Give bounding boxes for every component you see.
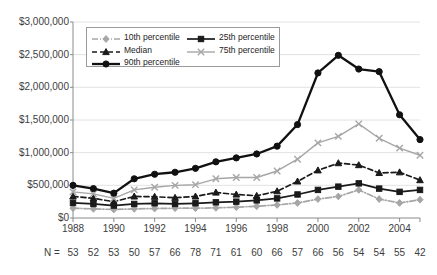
data-point-square: [397, 189, 402, 194]
data-point-square: [336, 184, 341, 189]
data-point-circle: [396, 112, 402, 118]
x-axis-tick-label: 1994: [175, 223, 215, 235]
x-axis-tick-label: 1988: [53, 223, 93, 235]
legend-swatch-icon: [186, 44, 216, 56]
data-point-square: [315, 187, 320, 192]
data-point-x: [396, 145, 402, 151]
legend-swatch-icon: [186, 31, 216, 43]
x-axis-tick-label: 1996: [216, 223, 256, 235]
chart-legend: 10th percentile25th percentileMedian75th…: [86, 27, 280, 67]
data-point-circle: [213, 159, 219, 165]
chart-figure: $0$500,000$1,000,000$1,500,000$2,000,000…: [0, 0, 437, 275]
data-point-circle: [254, 151, 260, 157]
data-point-x: [356, 121, 362, 127]
data-point-circle: [152, 171, 158, 177]
data-point-circle: [233, 155, 239, 161]
x-axis-tick-label: 2004: [380, 223, 420, 235]
data-point-square: [152, 201, 157, 206]
x-axis-tick-label: 2002: [339, 223, 379, 235]
data-point-circle: [294, 121, 300, 127]
data-point-circle: [131, 176, 137, 182]
data-point-circle: [192, 165, 198, 171]
data-point-diamond: [335, 193, 341, 200]
data-point-circle: [90, 186, 96, 192]
data-point-circle: [335, 52, 341, 58]
legend-swatch-icon: [91, 44, 121, 56]
data-point-x: [376, 135, 382, 141]
data-point-square: [132, 201, 137, 206]
data-point-diamond: [103, 36, 109, 43]
legend-item[interactable]: Median: [91, 44, 152, 56]
data-point-square: [295, 192, 300, 197]
series-90th-percentile: [70, 52, 423, 196]
data-point-square: [356, 181, 361, 186]
data-point-circle: [111, 190, 117, 196]
legend-item[interactable]: 25th percentile: [186, 31, 275, 43]
data-point-circle: [172, 169, 178, 175]
x-axis-tick-label: 1990: [94, 223, 134, 235]
series-line: [73, 124, 420, 198]
data-point-square: [172, 201, 177, 206]
data-point-circle: [417, 137, 423, 143]
data-point-circle: [70, 182, 76, 188]
data-point-circle: [103, 61, 109, 67]
data-point-square: [234, 199, 239, 204]
data-point-circle: [356, 66, 362, 72]
data-point-circle: [274, 143, 280, 149]
sample-size-value: 42: [408, 247, 432, 259]
series-median: [70, 160, 424, 205]
data-point-square: [213, 200, 218, 205]
data-point-square: [193, 201, 198, 206]
data-point-square: [198, 36, 203, 41]
data-point-diamond: [274, 202, 280, 209]
sample-size-label: N =: [44, 247, 60, 259]
x-axis-labels: 198819901992199419961998200020022004: [0, 223, 437, 237]
legend-label: 75th percentile: [216, 46, 275, 55]
data-point-diamond: [254, 203, 260, 210]
data-point-square: [274, 196, 279, 201]
data-point-square: [376, 186, 381, 191]
series-line: [73, 163, 420, 202]
x-axis-tick-label: 1992: [135, 223, 175, 235]
data-point-triangle: [396, 169, 403, 175]
legend-label: 10th percentile: [121, 33, 180, 42]
series-75th-percentile: [70, 121, 423, 202]
data-point-diamond: [417, 196, 423, 203]
legend-swatch-icon: [91, 31, 121, 43]
data-point-diamond: [376, 196, 382, 203]
data-point-x: [294, 156, 300, 162]
data-point-diamond: [294, 200, 300, 207]
legend-label: Median: [121, 46, 152, 55]
legend-item[interactable]: 75th percentile: [186, 44, 275, 56]
sample-size-row: N = 535253505766787161606657665654545542: [0, 247, 437, 261]
legend-item[interactable]: 10th percentile: [91, 31, 180, 43]
data-point-circle: [315, 70, 321, 76]
legend-label: 25th percentile: [216, 33, 275, 42]
data-point-square: [70, 200, 75, 205]
series-line: [73, 55, 420, 193]
data-point-diamond: [315, 196, 321, 203]
x-axis-tick-label: 1998: [257, 223, 297, 235]
data-point-triangle: [294, 178, 301, 184]
data-point-triangle: [315, 167, 322, 173]
legend-item[interactable]: 90th percentile: [91, 56, 180, 68]
legend-label: 90th percentile: [121, 58, 180, 67]
series-line: [73, 190, 420, 210]
data-point-square: [91, 201, 96, 206]
legend-swatch-icon: [91, 56, 121, 68]
data-point-diamond: [396, 200, 402, 207]
x-axis-tick-label: 2000: [298, 223, 338, 235]
data-point-circle: [376, 69, 382, 75]
data-point-square: [417, 187, 422, 192]
data-point-diamond: [356, 187, 362, 194]
